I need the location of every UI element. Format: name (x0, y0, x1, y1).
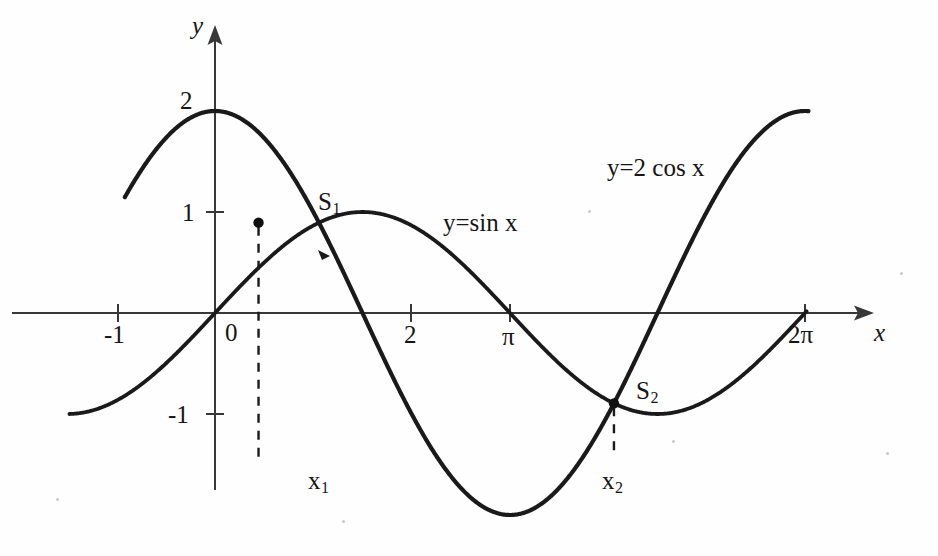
point-label-s2: S2 (636, 378, 658, 406)
intersection-point-s1[interactable] (253, 217, 263, 227)
scan-speck (672, 440, 675, 443)
x2-label-text: x (602, 467, 615, 494)
scan-speck (588, 210, 591, 213)
scan-speck (342, 520, 345, 523)
y-tick-label-2: 2 (180, 88, 193, 113)
scan-speck (886, 452, 889, 455)
y-axis-label: y (192, 13, 203, 38)
point-label-s1-sub: 1 (332, 200, 341, 217)
origin-label: 0 (225, 320, 238, 345)
x1-label-text: x (308, 467, 321, 494)
point-label-s2-text: S (636, 377, 650, 404)
plot-canvas-overlay (0, 0, 938, 556)
sine-curve-label: y=sin x (443, 210, 518, 235)
cosine-curve-label: y=2 cos x (607, 155, 704, 180)
y-tick-label-minus1: -1 (168, 402, 189, 427)
x2-label: x2 (602, 468, 623, 496)
x-tick-label-2pi: 2π (788, 322, 813, 347)
x-tick-label-2: 2 (404, 322, 417, 347)
point-label-s1: S1 (318, 189, 340, 217)
x-tick-label-minus1: -1 (104, 322, 125, 347)
intersection-point-s2[interactable] (609, 398, 619, 408)
scan-speck (900, 272, 903, 275)
scan-speck (56, 498, 59, 501)
x-axis-label: x (874, 320, 885, 345)
x2-label-sub: 2 (615, 479, 624, 496)
x-tick-label-pi: π (502, 324, 515, 349)
y-tick-label-1: 1 (182, 200, 195, 225)
point-label-s2-sub: 2 (650, 389, 659, 406)
function-plot-figure: y x 0 -1 2 π 2π 2 1 -1 y=sin x y=2 cos x… (0, 0, 938, 556)
x1-label-sub: 1 (321, 479, 330, 496)
point-label-s1-text: S (318, 188, 332, 215)
x1-label: x1 (308, 468, 329, 496)
